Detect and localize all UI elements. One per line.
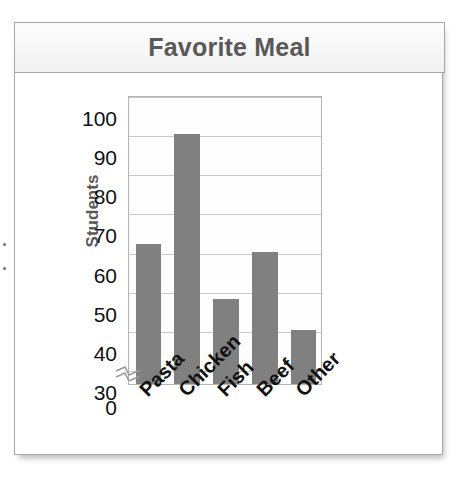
y-tick-label: 70 [61, 225, 117, 246]
chart-title: Favorite Meal [148, 33, 310, 62]
axis-break-icon [114, 351, 144, 381]
chart-card: Favorite Meal Students 10090807060504030… [14, 22, 443, 455]
x-axis-category-labels: PastaChickenFishBeefOther [128, 385, 438, 465]
page-artifact-dot [3, 243, 6, 246]
y-tick-label: 80 [61, 186, 117, 207]
page-artifact-dot [3, 267, 6, 270]
bar [174, 134, 200, 384]
y-tick-label: 60 [61, 264, 117, 285]
y-tick-label: 40 [61, 342, 117, 363]
chart-title-band: Favorite Meal [14, 22, 445, 73]
y-tick-label: 90 [61, 147, 117, 168]
y-tick-label: 100 [61, 108, 117, 129]
y-tick-label: 50 [61, 303, 117, 324]
y-tick-label: 0 [61, 397, 117, 418]
y-axis-tick-labels: 100908070605040300 [61, 96, 117, 396]
